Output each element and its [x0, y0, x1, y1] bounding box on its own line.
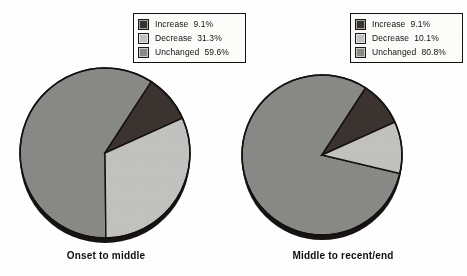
legend-label-increase: Increase9.1% [155, 19, 213, 29]
legend-name-decrease: Decrease [372, 33, 409, 43]
figure-canvas: Increase9.1% Decrease31.3% Unchanged59.6… [0, 0, 467, 276]
legend-row-increase: Increase9.1% [355, 17, 456, 31]
legend-row-unchanged: Unchanged80.8% [355, 45, 456, 59]
legend-label-unchanged: Unchanged80.8% [372, 47, 446, 57]
legend-swatch-increase-icon [355, 19, 366, 30]
legend-name-increase: Increase [372, 19, 405, 29]
legend-label-decrease: Decrease31.3% [155, 33, 222, 43]
legend-row-unchanged: Unchanged59.6% [138, 45, 239, 59]
pie-svg-left [12, 58, 202, 248]
legend-name-unchanged: Unchanged [155, 47, 199, 57]
legend-row-decrease: Decrease10.1% [355, 31, 456, 45]
legend-name-increase: Increase [155, 19, 188, 29]
legend-value-increase: 9.1% [193, 19, 213, 29]
pie-slices-left [20, 68, 190, 238]
legend-value-unchanged: 80.8% [421, 47, 446, 57]
legend-value-unchanged: 59.6% [204, 47, 229, 57]
legend-label-increase: Increase9.1% [372, 19, 430, 29]
legend-swatch-unchanged-icon [355, 47, 366, 58]
legend-row-decrease: Decrease31.3% [138, 31, 239, 45]
legend-value-increase: 9.1% [410, 19, 430, 29]
legend-middle-to-recent-end: Increase9.1% Decrease10.1% Unchanged80.8… [350, 13, 463, 63]
legend-row-increase: Increase9.1% [138, 17, 239, 31]
legend-swatch-decrease-icon [355, 33, 366, 44]
pie-chart-onset-to-middle [12, 58, 202, 248]
legend-swatch-increase-icon [138, 19, 149, 30]
legend-value-decrease: 31.3% [197, 33, 222, 43]
pie-chart-middle-to-recent-end [240, 68, 415, 243]
legend-label-unchanged: Unchanged59.6% [155, 47, 229, 57]
legend-swatch-unchanged-icon [138, 47, 149, 58]
legend-onset-to-middle: Increase9.1% Decrease31.3% Unchanged59.6… [133, 13, 246, 63]
legend-value-decrease: 10.1% [414, 33, 439, 43]
legend-swatch-decrease-icon [138, 33, 149, 44]
pie-svg-right [240, 68, 415, 243]
legend-label-decrease: Decrease10.1% [372, 33, 439, 43]
chart-caption-onset-to-middle: Onset to middle [0, 250, 212, 261]
legend-name-decrease: Decrease [155, 33, 192, 43]
chart-caption-middle-to-recent-end: Middle to recent/end [228, 250, 458, 261]
legend-name-unchanged: Unchanged [372, 47, 416, 57]
